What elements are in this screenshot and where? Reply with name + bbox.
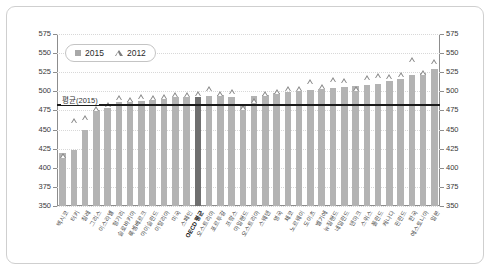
- y-tick-label: 550: [38, 49, 51, 57]
- y-tick-label: 525: [38, 68, 51, 76]
- y-tick-label: 525: [446, 68, 459, 76]
- y-tick-label: 375: [446, 183, 459, 191]
- gridline: [57, 206, 440, 207]
- y-tick-mark: [440, 187, 444, 188]
- y-tick-label: 375: [38, 183, 51, 191]
- y-tick-label: 575: [446, 30, 459, 38]
- legend-item-2012: 2012: [115, 48, 146, 58]
- y-tick-mark: [440, 91, 444, 92]
- y-tick-label: 550: [446, 49, 459, 57]
- y-tick-mark: [440, 110, 444, 111]
- x-axis-category-label: 멕시코: [56, 209, 70, 228]
- y-tick-mark: [440, 53, 444, 54]
- y-tick-label: 400: [38, 164, 51, 172]
- y-tick-mark: [440, 72, 444, 73]
- y-tick-mark: [440, 34, 444, 35]
- y-tick-label: 450: [38, 126, 51, 134]
- y-tick-mark: [440, 168, 444, 169]
- square-marker-icon: [75, 50, 81, 56]
- x-axis-category-label: 영국: [273, 209, 284, 222]
- y-tick-label: 350: [38, 202, 51, 210]
- y-tick-label: 425: [446, 145, 459, 153]
- legend-label-2012: 2012: [127, 48, 146, 58]
- x-axis-category-label: 터키: [70, 209, 81, 222]
- legend-label-2015: 2015: [85, 48, 104, 58]
- chart-panel: 575550525500475450425400375350 575550525…: [6, 6, 484, 264]
- y-tick-mark: [440, 149, 444, 150]
- triangle-marker-icon: [115, 50, 123, 56]
- y-tick-label: 425: [38, 145, 51, 153]
- y-tick-label: 450: [446, 126, 459, 134]
- y-tick-label: 475: [38, 106, 51, 114]
- y-tick-mark: [53, 206, 57, 207]
- chart-legend: 2015 2012: [65, 44, 156, 62]
- y-tick-label: 500: [38, 87, 51, 95]
- y-tick-label: 500: [446, 87, 459, 95]
- legend-item-2015: 2015: [75, 48, 104, 58]
- x-axis-category-label: 미국: [171, 209, 182, 222]
- y-tick-mark: [440, 206, 444, 207]
- y-tick-mark: [440, 130, 444, 131]
- y-tick-label: 350: [446, 202, 459, 210]
- y-tick-label: 575: [38, 30, 51, 38]
- x-axis-category-label: 일본: [430, 209, 441, 222]
- y-tick-label: 475: [446, 106, 459, 114]
- y-tick-label: 400: [446, 164, 459, 172]
